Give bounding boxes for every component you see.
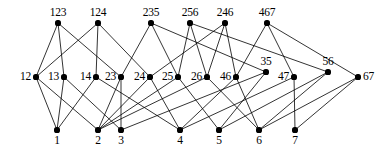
node-dot [175, 74, 180, 79]
graph-edge [98, 23, 150, 77]
graph-edge [121, 23, 151, 77]
node-dot [222, 20, 227, 25]
node-label-246: 246 [217, 7, 234, 19]
node-dot [233, 74, 238, 79]
node-label-56: 56 [322, 56, 333, 68]
node-label-46: 46 [220, 71, 231, 83]
node-label-14: 14 [80, 71, 91, 83]
graph-edge [96, 23, 98, 77]
node-dot [256, 127, 261, 132]
node-label-25: 25 [162, 71, 173, 83]
node-label-12: 12 [20, 71, 31, 83]
node-dot [292, 127, 297, 132]
node-label-235: 235 [143, 7, 160, 19]
graph-edge [151, 23, 266, 72]
graph-edge [178, 23, 190, 77]
graph-edge [219, 72, 328, 130]
node-label-4: 4 [177, 135, 183, 147]
node-dot [355, 74, 360, 79]
node-label-2: 2 [95, 135, 101, 147]
node-label-67: 67 [363, 71, 374, 83]
node-label-35: 35 [260, 56, 271, 68]
node-dot [325, 69, 330, 74]
node-label-256: 256 [182, 7, 199, 19]
graph-edge [36, 23, 58, 77]
node-dot [177, 127, 182, 132]
node-label-13: 13 [48, 71, 59, 83]
node-label-7: 7 [292, 135, 298, 147]
graph-edge [58, 23, 64, 77]
node-dot [263, 69, 268, 74]
hasse-diagram-figure: 1231242352562464671213142324252646354756… [0, 0, 386, 154]
node-label-467: 467 [259, 7, 276, 19]
node-dot [118, 74, 123, 79]
node-dot [55, 20, 60, 25]
node-label-124: 124 [90, 7, 107, 19]
node-dot [204, 74, 209, 79]
graph-edge [259, 72, 328, 130]
node-label-23: 23 [105, 71, 116, 83]
node-dot [95, 127, 100, 132]
graph-edge [98, 77, 207, 130]
graph-edge [36, 77, 98, 130]
node-dot [264, 20, 269, 25]
node-dot [95, 20, 100, 25]
graph-edge [190, 23, 207, 77]
node-label-123: 123 [50, 7, 67, 19]
graph-edge [180, 77, 236, 130]
graph-edge [180, 77, 294, 130]
node-label-47: 47 [278, 71, 289, 83]
graph-edge [178, 77, 219, 130]
graph-edge [236, 23, 267, 77]
node-dot [54, 127, 59, 132]
graph-edge [151, 23, 178, 77]
graph-edge [150, 77, 180, 130]
graph-edge [207, 23, 225, 77]
node-dot [291, 74, 296, 79]
node-dot [148, 20, 153, 25]
graph-edge [294, 77, 295, 130]
node-label-24: 24 [134, 71, 145, 83]
node-label-3: 3 [118, 135, 124, 147]
graph-edge [64, 77, 121, 130]
node-label-6: 6 [256, 135, 262, 147]
node-label-5: 5 [216, 135, 222, 147]
graph-edge [36, 77, 57, 130]
node-dot [187, 20, 192, 25]
node-dot [216, 127, 221, 132]
node-dot [33, 74, 38, 79]
graph-edge [225, 23, 236, 77]
node-dot [147, 74, 152, 79]
node-dot [61, 74, 66, 79]
node-dot [93, 74, 98, 79]
graph-edge [259, 77, 358, 130]
graph-edge [98, 77, 150, 130]
node-label-1: 1 [54, 135, 60, 147]
node-label-26: 26 [191, 71, 202, 83]
node-dot [118, 127, 123, 132]
graph-edge [98, 77, 178, 130]
